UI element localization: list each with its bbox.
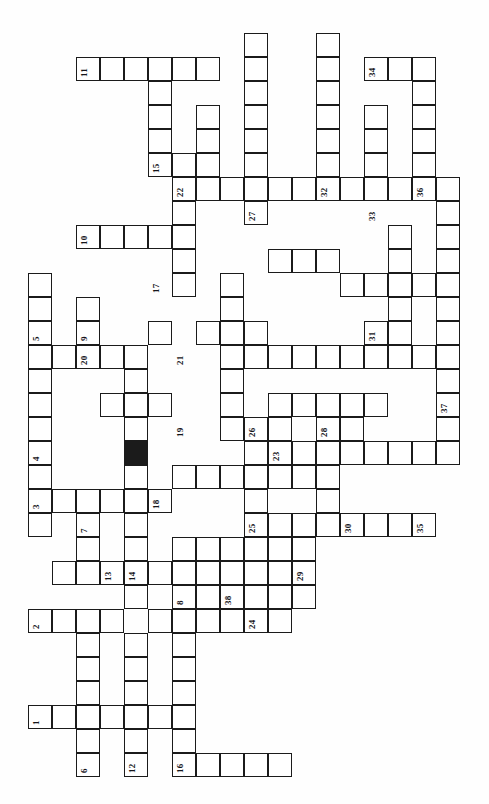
grid-cell[interactable] xyxy=(148,81,172,105)
grid-cell[interactable] xyxy=(436,345,460,369)
grid-cell[interactable] xyxy=(244,345,268,369)
grid-cell[interactable] xyxy=(28,417,52,441)
grid-cell[interactable] xyxy=(148,609,172,633)
grid-cell[interactable] xyxy=(220,393,244,417)
grid-cell[interactable] xyxy=(244,177,268,201)
grid-cell[interactable] xyxy=(196,537,220,561)
grid-cell[interactable] xyxy=(148,393,172,417)
grid-cell[interactable] xyxy=(316,441,340,465)
grid-cell[interactable] xyxy=(172,225,196,249)
grid-cell[interactable] xyxy=(76,489,100,513)
grid-cell[interactable] xyxy=(412,81,436,105)
grid-cell[interactable] xyxy=(172,201,196,225)
grid-cell[interactable] xyxy=(340,345,364,369)
grid-cell[interactable] xyxy=(316,153,340,177)
crossword-grid[interactable]: 1115222732343336101759213137262041928233… xyxy=(0,0,489,804)
grid-cell[interactable] xyxy=(124,537,148,561)
grid-cell[interactable] xyxy=(292,393,316,417)
grid-cell[interactable] xyxy=(292,465,316,489)
grid-cell[interactable] xyxy=(148,225,172,249)
grid-cell[interactable] xyxy=(388,177,412,201)
grid-cell[interactable] xyxy=(316,345,340,369)
grid-cell[interactable] xyxy=(220,297,244,321)
grid-cell[interactable] xyxy=(76,705,100,729)
grid-cell[interactable] xyxy=(316,105,340,129)
grid-cell[interactable] xyxy=(292,249,316,273)
grid-cell[interactable] xyxy=(124,729,148,753)
grid-cell[interactable] xyxy=(28,393,52,417)
grid-cell[interactable] xyxy=(436,417,460,441)
grid-cell[interactable] xyxy=(196,465,220,489)
grid-cell[interactable] xyxy=(100,489,124,513)
grid-cell[interactable] xyxy=(124,633,148,657)
grid-cell[interactable] xyxy=(436,273,460,297)
grid-cell[interactable] xyxy=(292,177,316,201)
grid-cell[interactable] xyxy=(436,177,460,201)
grid-cell[interactable] xyxy=(124,345,148,369)
grid-cell[interactable] xyxy=(172,705,196,729)
grid-cell[interactable] xyxy=(52,561,76,585)
grid-cell[interactable] xyxy=(172,609,196,633)
grid-cell[interactable] xyxy=(244,585,268,609)
grid-cell[interactable] xyxy=(76,729,100,753)
grid-cell[interactable] xyxy=(244,33,268,57)
grid-cell[interactable] xyxy=(436,369,460,393)
grid-cell[interactable] xyxy=(364,441,388,465)
grid-cell[interactable] xyxy=(244,81,268,105)
grid-cell[interactable] xyxy=(124,369,148,393)
grid-cell[interactable] xyxy=(28,345,52,369)
grid-cell[interactable] xyxy=(244,153,268,177)
grid-cell[interactable] xyxy=(148,561,172,585)
grid-cell[interactable] xyxy=(196,609,220,633)
grid-cell[interactable] xyxy=(220,609,244,633)
grid-cell[interactable] xyxy=(196,753,220,777)
grid-cell[interactable] xyxy=(100,393,124,417)
grid-cell[interactable] xyxy=(220,753,244,777)
grid-cell[interactable] xyxy=(196,177,220,201)
grid-cell[interactable] xyxy=(76,537,100,561)
grid-cell[interactable] xyxy=(172,537,196,561)
grid-cell[interactable] xyxy=(340,177,364,201)
grid-cell[interactable] xyxy=(100,225,124,249)
grid-cell[interactable] xyxy=(292,537,316,561)
grid-cell[interactable] xyxy=(172,657,196,681)
grid-cell[interactable] xyxy=(388,273,412,297)
grid-cell[interactable] xyxy=(148,105,172,129)
grid-cell[interactable] xyxy=(100,345,124,369)
grid-cell[interactable] xyxy=(196,105,220,129)
grid-cell[interactable] xyxy=(124,57,148,81)
grid-cell[interactable] xyxy=(52,489,76,513)
grid-cell[interactable] xyxy=(172,57,196,81)
grid-cell[interactable] xyxy=(436,441,460,465)
grid-cell[interactable] xyxy=(244,321,268,345)
grid-cell[interactable] xyxy=(244,561,268,585)
grid-cell[interactable] xyxy=(124,393,148,417)
grid-cell[interactable] xyxy=(172,249,196,273)
grid-cell[interactable] xyxy=(316,513,340,537)
grid-cell[interactable] xyxy=(364,129,388,153)
grid-cell[interactable] xyxy=(220,417,244,441)
grid-cell[interactable] xyxy=(172,153,196,177)
grid-cell[interactable] xyxy=(28,705,52,729)
grid-cell[interactable] xyxy=(412,57,436,81)
grid-cell[interactable] xyxy=(316,129,340,153)
grid-cell[interactable] xyxy=(436,225,460,249)
grid-cell[interactable] xyxy=(28,465,52,489)
grid-cell[interactable] xyxy=(364,513,388,537)
grid-cell[interactable] xyxy=(148,57,172,81)
grid-cell[interactable] xyxy=(196,57,220,81)
grid-cell[interactable] xyxy=(100,609,124,633)
grid-cell[interactable] xyxy=(316,33,340,57)
grid-cell[interactable] xyxy=(436,201,460,225)
grid-cell[interactable] xyxy=(100,705,124,729)
grid-cell[interactable] xyxy=(244,441,268,465)
grid-cell[interactable] xyxy=(124,585,148,609)
grid-cell[interactable] xyxy=(268,609,292,633)
grid-cell[interactable] xyxy=(340,441,364,465)
grid-cell[interactable] xyxy=(76,753,100,777)
grid-cell[interactable] xyxy=(244,465,268,489)
grid-cell[interactable] xyxy=(220,537,244,561)
grid-cell[interactable] xyxy=(412,345,436,369)
grid-cell[interactable] xyxy=(268,465,292,489)
grid-cell[interactable] xyxy=(28,273,52,297)
